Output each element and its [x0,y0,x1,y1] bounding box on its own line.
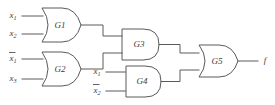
gate-g5[interactable]: G5 [199,45,238,77]
input-x3-g2-subscript: 3 [12,77,16,84]
input-x2-g1-subscript: 2 [13,32,16,39]
input-label-nx2-g4: x2 [92,85,100,97]
svg-text:x2: x2 [92,85,100,96]
input-label-x3-g2: x3 [8,73,16,84]
input-nx2-g4-subscript: 2 [97,89,100,96]
input-nx1-g2-subscript: 1 [13,57,16,64]
svg-text:x1: x1 [8,53,16,64]
logic-circuit-diagram: G1 G2 G3 G4 G5 [0,0,275,105]
input-x1-g1-subscript: 1 [13,14,16,21]
gate-g4[interactable]: G4 [126,66,161,97]
svg-text:x1: x1 [92,66,100,77]
gate-g3-label: G3 [134,39,145,49]
wire-g1-to-g3 [81,25,122,36]
circuit-canvas: G1 G2 G3 G4 G5 [0,0,275,105]
input-label-x1-g4: x1 [92,66,100,77]
input-label-nx1-g2: x1 [8,53,16,65]
wire-g4-to-g5 [161,70,199,82]
input-label-x1-g1: x1 [8,10,16,21]
output-label-f: f [264,55,268,65]
output-f-letter: f [264,55,268,65]
gate-g2-label: G2 [55,64,66,74]
gate-g2[interactable]: G2 [42,52,81,86]
svg-text:x3: x3 [8,73,16,84]
gate-g5-label: G5 [212,56,223,66]
input-x1-g4-subscript: 1 [97,70,100,77]
svg-text:x1: x1 [8,10,16,21]
gate-g4-label: G4 [137,76,148,86]
gate-g3[interactable]: G3 [122,29,159,60]
gate-g1-label: G1 [55,20,66,30]
wire-g3-to-g5 [159,45,199,54]
wire-g2-to-g3 [81,53,122,69]
input-label-x2-g1: x2 [8,28,16,39]
gate-g1[interactable]: G1 [42,8,81,42]
svg-text:x2: x2 [8,28,16,39]
